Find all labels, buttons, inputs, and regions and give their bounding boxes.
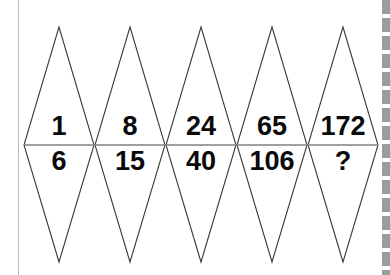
diamond-5-top-number: 172: [320, 111, 365, 141]
diamond-4-top-number: 65: [257, 111, 287, 141]
puzzle-canvas: 1 6 8 15 24 40 65 106 172 ?: [0, 0, 390, 275]
diamond-puzzle-figure: 1 6 8 15 24 40 65 106 172 ?: [0, 0, 390, 275]
diamond-3-top-number: 24: [186, 111, 216, 141]
diamond-2-top-number: 8: [122, 111, 137, 141]
diamond-1-top-number: 1: [51, 111, 66, 141]
diamond-2-bottom-number: 15: [115, 146, 145, 176]
diamond-5-unknown-number: ?: [335, 146, 352, 176]
diamond-3-bottom-number: 40: [186, 146, 216, 176]
diamond-4-bottom-number: 106: [249, 146, 294, 176]
diamond-1-bottom-number: 6: [51, 146, 66, 176]
right-scrollbar[interactable]: [382, 0, 390, 275]
